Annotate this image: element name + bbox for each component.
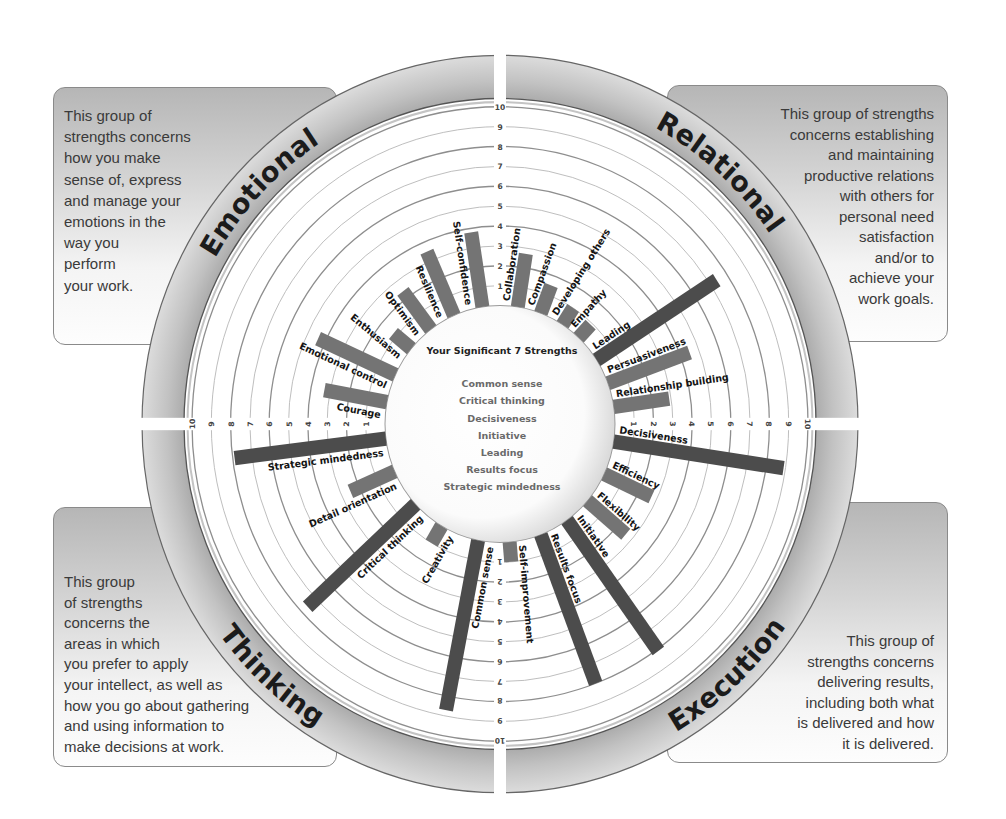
axis-tick-label: 10 bbox=[495, 736, 505, 745]
axis-tick-label: 2 bbox=[343, 421, 352, 426]
axis-tick-label: 10 bbox=[803, 419, 812, 430]
significant-strength-item: Decisiveness bbox=[467, 413, 537, 424]
axis-tick-label: 1 bbox=[497, 557, 502, 566]
axis-tick-label: 3 bbox=[497, 597, 502, 606]
axis-tick-label: 5 bbox=[497, 202, 502, 211]
significant-strength-item: Initiative bbox=[478, 430, 526, 441]
axis-tick-label: 8 bbox=[227, 421, 236, 426]
axis-tick-label: 4 bbox=[687, 421, 696, 426]
axis-tick-label: 10 bbox=[495, 103, 505, 112]
axis-tick-label: 6 bbox=[726, 421, 735, 426]
significant-strength-item: Strategic mindedness bbox=[444, 481, 561, 492]
axis-tick-label: 2 bbox=[649, 421, 658, 426]
axis-tick-label: 7 bbox=[497, 162, 502, 171]
center-circle bbox=[385, 306, 615, 543]
wheel: 1234567891012345678910123456789101234567… bbox=[138, 51, 862, 797]
axis-tick-label: 6 bbox=[265, 421, 274, 426]
axis-tick-label: 4 bbox=[497, 617, 502, 626]
axis-tick-label: 7 bbox=[745, 421, 754, 426]
axis-tick-label: 8 bbox=[497, 143, 502, 152]
axis-tick-label: 3 bbox=[323, 421, 332, 426]
axis-tick-label: 3 bbox=[668, 421, 677, 426]
axis-tick-label: 6 bbox=[497, 182, 502, 191]
axis-tick-label: 9 bbox=[207, 421, 216, 426]
significant-strengths-title: Your Significant 7 Strengths bbox=[426, 345, 578, 356]
axis-tick-label: 7 bbox=[246, 421, 255, 426]
axis-tick-label: 10 bbox=[188, 419, 197, 430]
significant-strength-item: Critical thinking bbox=[459, 395, 545, 406]
axis-tick-label: 2 bbox=[497, 262, 502, 271]
strengths-wheel-page: This group ofstrengths concernshow you m… bbox=[0, 0, 1006, 819]
significant-strength-item: Common sense bbox=[462, 378, 543, 389]
significant-strength-item: Results focus bbox=[466, 464, 538, 475]
axis-tick-label: 8 bbox=[764, 421, 773, 426]
axis-tick-label: 8 bbox=[497, 696, 502, 705]
axis-tick-label: 7 bbox=[497, 676, 502, 685]
axis-tick-label: 4 bbox=[304, 421, 313, 426]
axis-tick-label: 9 bbox=[784, 421, 793, 426]
axis-tick-label: 2 bbox=[497, 577, 502, 586]
bar-self-improvement bbox=[503, 541, 519, 562]
significant-strength-item: Leading bbox=[481, 447, 524, 458]
axis-tick-label: 9 bbox=[497, 716, 502, 725]
axis-tick-label: 1 bbox=[362, 421, 371, 426]
axis-tick-label: 9 bbox=[497, 123, 502, 132]
axis-tick-label: 5 bbox=[707, 421, 716, 426]
axis-tick-label: 5 bbox=[285, 421, 294, 426]
axis-tick-label: 5 bbox=[497, 637, 502, 646]
axis-tick-label: 6 bbox=[497, 657, 502, 666]
radial-strengths-chart: 1234567891012345678910123456789101234567… bbox=[0, 0, 1006, 819]
axis-tick-label: 3 bbox=[497, 242, 502, 251]
axis-tick-label: 4 bbox=[497, 222, 502, 231]
